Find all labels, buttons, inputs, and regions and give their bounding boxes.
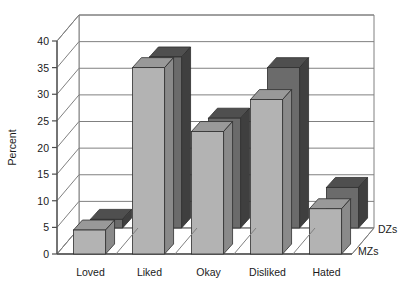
y-axis-tick-label: 0 (43, 248, 49, 260)
bar-side-face (241, 108, 250, 228)
y-axis-tick-label: 20 (37, 142, 49, 154)
x-axis-category-label: Hated (312, 266, 340, 278)
bar-front-face (73, 230, 105, 254)
y-axis-title: Percent (6, 129, 18, 165)
y-axis-tick-label: 5 (43, 221, 49, 233)
y-axis-tick-label: 10 (37, 195, 49, 207)
bar-chart-3d: 0510152025303540LovedLikedOkayDislikedHa… (0, 0, 408, 290)
y-axis-tick-label: 35 (37, 62, 49, 74)
y-axis-tick-label: 15 (37, 168, 49, 180)
bar-front-face (191, 132, 223, 254)
bar-mzs-okay (191, 122, 232, 254)
y-axis-tick-label: 30 (37, 88, 49, 100)
y-axis-tick-label: 25 (37, 115, 49, 127)
x-axis-category-label: Okay (196, 266, 221, 278)
bar-mzs-loved (73, 220, 114, 254)
bar-side-face (283, 90, 292, 254)
bar-front-face (132, 68, 164, 254)
y-axis-tick-label: 40 (37, 35, 49, 47)
x-axis-category-label: Liked (137, 266, 162, 278)
x-axis-category-label: Loved (76, 266, 105, 278)
legend-label-mzs: MZs (358, 245, 378, 257)
bar-side-face (300, 58, 309, 228)
bar-front-face (250, 100, 282, 254)
x-axis-category-label: Disliked (249, 266, 286, 278)
bar-front-face (309, 209, 341, 254)
bar-side-face (224, 122, 233, 254)
legend-label-dzs: DZs (378, 223, 397, 235)
bar-side-face (165, 58, 174, 254)
bar-side-face (182, 47, 191, 228)
bar-mzs-hated (309, 199, 350, 254)
bar-mzs-liked (132, 58, 173, 254)
chart-container: 0510152025303540LovedLikedOkayDislikedHa… (0, 0, 408, 290)
bar-side-face (342, 199, 351, 254)
bar-mzs-disliked (250, 90, 291, 254)
